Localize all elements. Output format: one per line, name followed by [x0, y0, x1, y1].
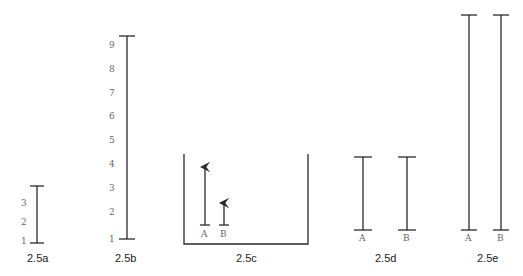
caption-2-5b: 2.5b [115, 252, 136, 264]
scale-label: 3 [21, 198, 27, 208]
bar-label-a: A [464, 233, 472, 243]
scale-label: 5 [109, 135, 115, 145]
scale-label: 1 [21, 236, 27, 246]
bar-label-b: B [403, 233, 410, 243]
caption-2-5c: 2.5c [236, 252, 257, 264]
scale-label: 9 [109, 40, 115, 50]
diagram-canvas: 3 2 1 2.5a 9 8 7 6 5 4 3 2 1 2.5b A B 2.… [0, 0, 523, 276]
scale-label: 4 [109, 159, 115, 169]
caption-2-5d: 2.5d [375, 252, 396, 264]
bar-label-a: A [200, 229, 208, 239]
bar-label-a: A [358, 233, 366, 243]
caption-2-5e: 2.5e [477, 252, 498, 264]
scale-label: 6 [109, 111, 115, 121]
bar-label-b: B [220, 229, 227, 239]
scale-label: 2 [109, 207, 115, 217]
figure-2-5b: 9 8 7 6 5 4 3 2 1 2.5b [109, 36, 136, 264]
figure-2-5c: A B 2.5c [184, 154, 308, 264]
figure-2-5a: 3 2 1 2.5a [21, 186, 49, 264]
scale-label: 1 [109, 234, 115, 244]
figure-2-5d: A B 2.5d [354, 157, 416, 264]
scale-label: 8 [109, 64, 115, 74]
scale-label: 3 [109, 183, 115, 193]
caption-2-5a: 2.5a [27, 252, 49, 264]
scale-label: 7 [109, 88, 115, 98]
bar-label-b: B [497, 233, 504, 243]
scale-label: 2 [21, 217, 27, 227]
figure-2-5e: A B 2.5e [461, 15, 509, 264]
